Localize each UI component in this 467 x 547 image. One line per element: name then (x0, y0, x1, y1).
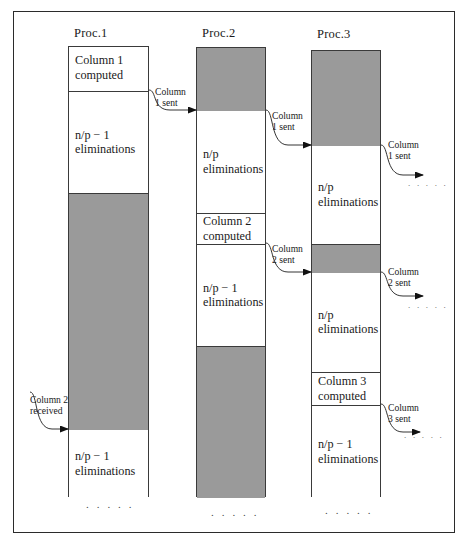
message-label-line2: 1 sent (388, 150, 419, 161)
message-label-column-1-sent-p2: Column 1 sent (272, 110, 303, 133)
proc-3-segment-1: n/p eliminations (312, 146, 380, 244)
proc-3-segment-4-label: Column 3 computed (318, 374, 377, 404)
message-label-column-3-sent-p3: Column 3 sent (388, 402, 419, 425)
message-label-line1: Column (388, 402, 419, 413)
proc-3-segment-5: n/p − 1 eliminations (312, 405, 380, 498)
proc-3-segment-0 (312, 51, 380, 146)
proc-1-continuation-dots: . . . . . (86, 498, 134, 510)
proc-3-segment-4: Column 3 computed (312, 372, 380, 405)
proc-2-segment-2-label: Column 2 computed (203, 214, 262, 244)
proc-2-segment-3: n/p − 1 eliminations (197, 244, 265, 346)
proc-2-segment-3-label: n/p − 1 eliminations (203, 281, 262, 311)
proc-2-segment-4 (197, 346, 265, 498)
proc-2-segment-2: Column 2 computed (197, 213, 265, 244)
gantt-pipeline-diagram: Proc.1 Column 1 computed n/p − 1 elimina… (0, 0, 467, 547)
proc-3-segment-3: n/p eliminations (312, 273, 380, 372)
message-label-line2: 2 sent (272, 254, 303, 265)
message-label-line1: Column (388, 266, 419, 277)
proc-1-title: Proc.1 (74, 26, 108, 41)
proc-2-segment-1: n/p eliminations (197, 111, 265, 213)
message-label-column-2-sent-p3: Column 2 sent (388, 266, 419, 289)
message-label-column-2-sent-p2: Column 2 sent (272, 243, 303, 266)
message-label-line2: 2 sent (388, 277, 419, 288)
proc-1-segment-1: n/p − 1 eliminations (69, 91, 148, 193)
proc-1-segment-0: Column 1 computed (69, 47, 148, 91)
proc-3-segment-5-label: n/p − 1 eliminations (318, 437, 377, 467)
message-label-line1: Column (155, 86, 186, 97)
proc-3-column: n/p eliminations n/p eliminations Column… (311, 50, 381, 497)
message-label-line2: received (30, 405, 68, 416)
proc-2-continuation-dots: . . . . . (211, 506, 259, 518)
proc-1-segment-1-label: n/p − 1 eliminations (75, 128, 145, 158)
proc-2-segment-0 (197, 48, 265, 111)
proc-3-continuation-dots: . . . . . (325, 504, 373, 516)
message-label-column-1-sent-p1: Column 1 sent (155, 86, 186, 109)
message-label-line2: 3 sent (388, 413, 419, 424)
proc-1-segment-0-label: Column 1 computed (75, 53, 145, 83)
proc-3-segment-3-label: n/p eliminations (318, 308, 377, 338)
proc-3-segment-1-label: n/p eliminations (318, 180, 377, 210)
message-label-column-2-received: Column 2 received (30, 394, 68, 417)
trailing-dots-3: . . . . . (404, 430, 444, 440)
proc-2-title: Proc.2 (202, 26, 236, 41)
message-label-line1: Column 2 (30, 394, 68, 405)
message-label-column-1-sent-p3: Column 1 sent (388, 139, 419, 162)
proc-3-segment-2 (312, 244, 380, 273)
message-label-line2: 1 sent (272, 121, 303, 132)
proc-2-segment-1-label: n/p eliminations (203, 147, 262, 177)
message-label-line2: 1 sent (155, 97, 186, 108)
trailing-dots-1: . . . . . (408, 178, 448, 188)
proc-3-title: Proc.3 (317, 27, 351, 42)
proc-1-segment-2 (69, 193, 148, 430)
proc-1-segment-3-label: n/p − 1 eliminations (75, 449, 145, 479)
proc-1-column: Column 1 computed n/p − 1 eliminations n… (68, 46, 149, 497)
trailing-dots-2: . . . . . (408, 300, 448, 310)
message-label-line1: Column (272, 243, 303, 254)
proc-1-segment-3: n/p − 1 eliminations (69, 430, 148, 498)
message-label-line1: Column (388, 139, 419, 150)
proc-2-column: n/p eliminations Column 2 computed n/p −… (196, 47, 266, 497)
message-label-line1: Column (272, 110, 303, 121)
